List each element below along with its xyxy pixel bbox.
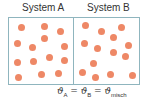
particle	[46, 54, 53, 61]
particle	[15, 74, 22, 81]
particle	[122, 53, 129, 60]
equals-sign: =	[94, 86, 102, 96]
particle	[129, 72, 136, 79]
subscript-misch: misch	[111, 92, 127, 98]
particle	[41, 23, 48, 30]
particle	[38, 71, 45, 78]
temperature-equation: ϑA = ϑB = ϑmisch	[57, 86, 127, 98]
system-a-label: System A	[22, 2, 64, 13]
particle	[125, 42, 132, 49]
particle	[41, 35, 48, 42]
particle	[82, 22, 89, 29]
partition-divider	[73, 17, 74, 84]
particle	[57, 28, 64, 35]
particle	[18, 24, 25, 31]
particle	[98, 28, 105, 35]
particle	[61, 57, 68, 64]
particle	[55, 70, 62, 77]
particle	[14, 59, 21, 66]
system-b-label: System B	[87, 2, 130, 13]
particle	[81, 40, 88, 47]
subscript-b: B	[87, 92, 91, 98]
particle	[90, 60, 97, 67]
particle	[30, 58, 37, 65]
subscript-a: A	[63, 92, 67, 98]
particle	[61, 43, 68, 50]
particle	[118, 24, 125, 31]
particle	[79, 69, 86, 76]
particle	[110, 49, 117, 56]
particle	[107, 71, 114, 78]
particle	[29, 44, 36, 51]
particle	[110, 34, 117, 41]
particle	[92, 74, 99, 81]
equals-sign: =	[70, 86, 78, 96]
particle	[14, 40, 21, 47]
particle	[94, 45, 101, 52]
